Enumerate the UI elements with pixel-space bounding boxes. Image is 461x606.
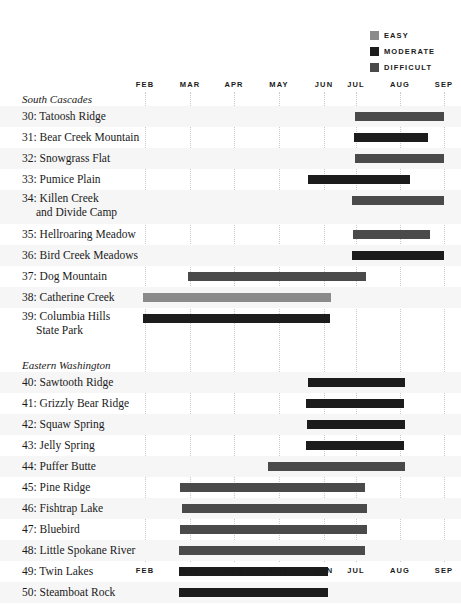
- axis-tick-label: FEB: [136, 80, 154, 89]
- axis-tick-label: AUG: [390, 80, 410, 89]
- season-bar[interactable]: [143, 293, 331, 302]
- axis-tick-label: JUN: [315, 80, 333, 89]
- chart-row[interactable]: 30: Tatoosh Ridge: [0, 106, 461, 127]
- difficulty-legend: EASYMODERATEDIFFICULT: [370, 28, 460, 76]
- chart-row[interactable]: 43: Jelly Spring: [0, 435, 461, 456]
- axis-tick-label: SEP: [435, 566, 453, 575]
- chart-row[interactable]: 33: Pumice Plain: [0, 169, 461, 190]
- axis-tick-label: MAY: [269, 566, 288, 575]
- legend-label: EASY: [384, 31, 409, 40]
- chart-row[interactable]: 42: Squaw Spring: [0, 414, 461, 435]
- axis-tick-label: AUG: [390, 566, 410, 575]
- axis-bottom: FEBMARAPRMAYJUNJULAUGSEP: [0, 566, 461, 578]
- chart-row[interactable]: 34: Killen Creekand Divide Camp: [0, 190, 461, 224]
- row-label: 42: Squaw Spring: [22, 414, 104, 435]
- legend-label: DIFFICULT: [384, 63, 432, 72]
- row-label: 34: Killen Creekand Divide Camp: [22, 190, 117, 219]
- chart-row[interactable]: 35: Hellroaring Meadow: [0, 224, 461, 245]
- axis-tick-label: FEB: [136, 566, 154, 575]
- season-bar[interactable]: [353, 230, 430, 239]
- season-bar[interactable]: [354, 133, 428, 142]
- axis-tick-label: JUL: [347, 80, 364, 89]
- season-bar[interactable]: [352, 196, 444, 205]
- row-label: 41: Grizzly Bear Ridge: [22, 393, 129, 414]
- chart-row[interactable]: 36: Bird Creek Meadows: [0, 245, 461, 266]
- legend-swatch-icon: [370, 31, 379, 40]
- axis-tick-label: APR: [224, 80, 243, 89]
- row-label: 37: Dog Mountain: [22, 266, 107, 287]
- axis-tick-label: JUL: [347, 566, 364, 575]
- chart-row[interactable]: 45: Pine Ridge: [0, 477, 461, 498]
- axis-tick-label: SEP: [435, 80, 453, 89]
- legend-swatch-icon: [370, 63, 379, 72]
- row-label: 33: Pumice Plain: [22, 169, 101, 190]
- row-label: 43: Jelly Spring: [22, 435, 95, 456]
- season-bar[interactable]: [352, 251, 444, 260]
- section-header: South Cascades: [22, 93, 92, 105]
- legend-item: EASY: [370, 28, 460, 42]
- row-label: 30: Tatoosh Ridge: [22, 106, 106, 127]
- row-label: 44: Puffer Butte: [22, 456, 96, 477]
- legend-item: MODERATE: [370, 44, 460, 58]
- season-bar[interactable]: [306, 399, 404, 408]
- axis-tick-label: MAR: [180, 566, 200, 575]
- chart-row[interactable]: 47: Bluebird: [0, 519, 461, 540]
- chart-row[interactable]: 46: Fishtrap Lake: [0, 498, 461, 519]
- season-bar[interactable]: [143, 314, 330, 323]
- season-bar[interactable]: [355, 154, 444, 163]
- section-header: Eastern Washington: [22, 359, 111, 371]
- chart-row[interactable]: 44: Puffer Butte: [0, 456, 461, 477]
- row-label: 39: Columbia HillsState Park: [22, 308, 110, 337]
- season-bar[interactable]: [308, 175, 410, 184]
- season-bar[interactable]: [180, 525, 367, 534]
- row-label: 31: Bear Creek Mountain: [22, 127, 139, 148]
- axis-tick-label: JUN: [315, 566, 333, 575]
- season-bar[interactable]: [307, 420, 405, 429]
- season-bar[interactable]: [180, 483, 365, 492]
- row-label: 38: Catherine Creek: [22, 287, 115, 308]
- row-label: 46: Fishtrap Lake: [22, 498, 103, 519]
- chart-row[interactable]: 37: Dog Mountain: [0, 266, 461, 287]
- seasonal-trail-chart: EASYMODERATEDIFFICULT FEBMARAPRMAYJUNJUL…: [0, 0, 461, 606]
- axis-tick-label: MAR: [180, 80, 200, 89]
- season-bar[interactable]: [308, 378, 405, 387]
- axis-tick-label: APR: [224, 566, 243, 575]
- axis-tick-label: MAY: [269, 80, 288, 89]
- row-label: 40: Sawtooth Ridge: [22, 372, 113, 393]
- season-bar[interactable]: [182, 504, 367, 513]
- chart-row[interactable]: 31: Bear Creek Mountain: [0, 127, 461, 148]
- chart-row[interactable]: 40: Sawtooth Ridge: [0, 372, 461, 393]
- chart-row[interactable]: 48: Little Spokane River: [0, 540, 461, 561]
- chart-row[interactable]: 38: Catherine Creek: [0, 287, 461, 308]
- row-label: 48: Little Spokane River: [22, 540, 135, 561]
- season-bar[interactable]: [179, 546, 365, 555]
- plot-area: South Cascades30: Tatoosh Ridge31: Bear …: [0, 92, 461, 562]
- season-bar[interactable]: [306, 441, 404, 450]
- season-bar[interactable]: [355, 112, 444, 121]
- season-bar[interactable]: [188, 272, 366, 281]
- legend-label: MODERATE: [384, 47, 435, 56]
- row-label: 50: Steamboat Rock: [22, 582, 115, 603]
- row-label: 45: Pine Ridge: [22, 477, 90, 498]
- chart-row[interactable]: 32: Snowgrass Flat: [0, 148, 461, 169]
- season-bar[interactable]: [179, 588, 328, 597]
- chart-row[interactable]: 50: Steamboat Rock: [0, 582, 461, 603]
- axis-top: FEBMARAPRMAYJUNJULAUGSEP: [0, 80, 461, 92]
- season-bar[interactable]: [268, 462, 405, 471]
- row-label: 36: Bird Creek Meadows: [22, 245, 138, 266]
- chart-row[interactable]: 39: Columbia HillsState Park: [0, 308, 461, 342]
- chart-row[interactable]: 41: Grizzly Bear Ridge: [0, 393, 461, 414]
- row-label: 32: Snowgrass Flat: [22, 148, 110, 169]
- legend-item: DIFFICULT: [370, 60, 460, 74]
- row-label: 35: Hellroaring Meadow: [22, 224, 136, 245]
- row-label: 47: Bluebird: [22, 519, 80, 540]
- legend-swatch-icon: [370, 47, 379, 56]
